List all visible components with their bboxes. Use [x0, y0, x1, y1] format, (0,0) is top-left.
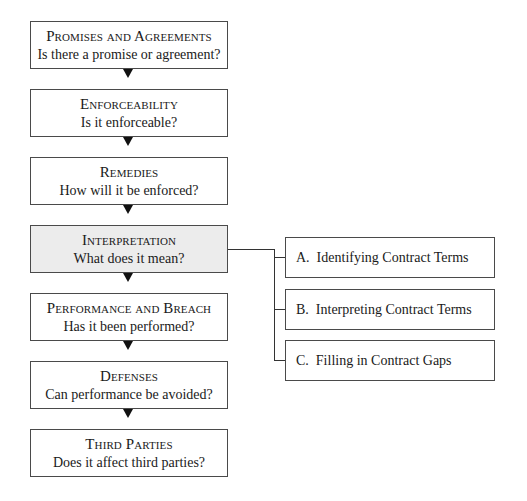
- step-performance-breach: Performance and Breach Has it been perfo…: [30, 293, 228, 341]
- subtopic-filling-gaps: C. Filling in Contract Gaps: [285, 340, 495, 381]
- step-question: Is it enforceable?: [31, 114, 227, 132]
- subtopic-interpreting-terms: B. Interpreting Contract Terms: [285, 289, 495, 330]
- connector-vertical: [274, 249, 275, 361]
- step-title: Remedies: [31, 163, 227, 182]
- down-arrow-icon: [123, 273, 133, 282]
- down-arrow-icon: [123, 69, 133, 78]
- subtopic-label: A. Identifying Contract Terms: [296, 250, 469, 265]
- down-arrow-icon: [123, 341, 133, 350]
- down-arrow-icon: [123, 205, 133, 214]
- connector-branch-c: [274, 360, 285, 361]
- subtopic-label: B. Interpreting Contract Terms: [296, 302, 472, 317]
- step-title: Performance and Breach: [31, 299, 227, 318]
- step-interpretation: Interpretation What does it mean?: [30, 225, 228, 273]
- step-question: How will it be enforced?: [31, 182, 227, 200]
- down-arrow-icon: [123, 409, 133, 418]
- step-title: Third Parties: [31, 435, 227, 454]
- step-question: Can performance be avoided?: [31, 386, 227, 404]
- subtopic-identifying-terms: A. Identifying Contract Terms: [285, 237, 495, 278]
- step-remedies: Remedies How will it be enforced?: [30, 157, 228, 205]
- step-title: Promises and Agreements: [31, 27, 227, 46]
- step-third-parties: Third Parties Does it affect third parti…: [30, 429, 228, 477]
- step-title: Interpretation: [31, 231, 227, 250]
- step-title: Defenses: [31, 367, 227, 386]
- step-title: Enforceability: [31, 95, 227, 114]
- step-promises-agreements: Promises and Agreements Is there a promi…: [30, 21, 228, 69]
- step-enforceability: Enforceability Is it enforceable?: [30, 89, 228, 137]
- step-question: Has it been performed?: [31, 318, 227, 336]
- step-question: Is there a promise or agreement?: [31, 46, 227, 64]
- step-question: What does it mean?: [31, 250, 227, 268]
- step-question: Does it affect third parties?: [31, 454, 227, 472]
- step-defenses: Defenses Can performance be avoided?: [30, 361, 228, 409]
- connector-branch-b: [274, 309, 285, 310]
- subtopic-label: C. Filling in Contract Gaps: [296, 353, 452, 368]
- down-arrow-icon: [123, 137, 133, 146]
- connector-branch-a: [274, 257, 285, 258]
- connector-horizontal: [228, 249, 275, 250]
